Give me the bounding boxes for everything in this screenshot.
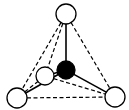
edge-top-back-left [48, 23, 63, 67]
bonds [26, 24, 107, 93]
atom-bottom-right [105, 87, 125, 107]
atom-bottom-left [7, 88, 27, 108]
atom-top [56, 4, 76, 24]
atom-center [57, 61, 75, 79]
bond-center-bottom-right [74, 74, 106, 92]
edge-bottom-left-bottom-right [27, 97, 105, 98]
atom-back-left [36, 67, 54, 85]
edge-top-bottom-right [71, 23, 110, 89]
tetrahedral-molecule-diagram [0, 0, 129, 110]
edge-back-left-bottom-right [54, 79, 106, 95]
